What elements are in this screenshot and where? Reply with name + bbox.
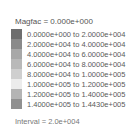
legend-row: 8.0000e+004 to 1.0000e+005 xyxy=(11,69,136,79)
color-swatch xyxy=(11,69,22,79)
range-label: 8.0000e+004 to 1.0000e+005 xyxy=(27,70,125,79)
color-swatch xyxy=(11,49,22,59)
range-label: 1.4000e+005 to 1.4430e+005 xyxy=(27,100,125,109)
range-label: 6.0000e+004 to 8.0000e+004 xyxy=(27,60,125,69)
color-swatch xyxy=(11,89,22,99)
interval-label: Interval = 2.0e+004 xyxy=(15,117,80,126)
color-swatch xyxy=(11,99,22,109)
range-label: 0.0000e+000 to 2.0000e+004 xyxy=(27,30,125,39)
range-label: 1.2000e+005 to 1.4000e+005 xyxy=(27,90,125,99)
contour-legend: 0.0000e+000 to 2.0000e+004 2.0000e+004 t… xyxy=(11,29,136,109)
legend-row: 1.2000e+005 to 1.4000e+005 xyxy=(11,89,136,99)
legend-row: 1.4000e+005 to 1.4430e+005 xyxy=(11,99,136,109)
legend-row: 1.0000e+005 to 1.2000e+005 xyxy=(11,79,136,89)
legend-row: 2.0000e+004 to 4.0000e+004 xyxy=(11,39,136,49)
legend-row: 6.0000e+004 to 8.0000e+004 xyxy=(11,59,136,69)
range-label: 2.0000e+004 to 4.0000e+004 xyxy=(27,40,125,49)
color-swatch xyxy=(11,59,22,69)
color-swatch xyxy=(11,79,22,89)
legend-row: 0.0000e+000 to 2.0000e+004 xyxy=(11,29,136,39)
color-swatch xyxy=(11,39,22,49)
legend-row: 4.0000e+004 to 6.0000e+004 xyxy=(11,49,136,59)
range-label: 4.0000e+004 to 6.0000e+004 xyxy=(27,50,125,59)
color-swatch xyxy=(11,29,22,39)
range-label: 1.0000e+005 to 1.2000e+005 xyxy=(27,80,125,89)
legend-title: Magfac = 0.000e+000 xyxy=(15,17,93,26)
